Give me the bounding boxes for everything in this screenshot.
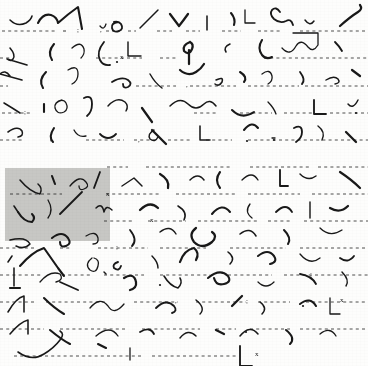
paragraph-x-mark: x <box>150 216 154 224</box>
ink-dot <box>245 331 247 333</box>
paragraph-x-mark: x <box>340 296 344 304</box>
ink-dot <box>159 284 161 286</box>
semicolon-mark: ; <box>77 26 79 34</box>
paragraph-x-mark: x <box>106 190 110 198</box>
ink-dot <box>246 140 248 142</box>
semicolon-mark: ; <box>246 297 248 305</box>
comma-mark: , <box>50 135 52 143</box>
ink-dot <box>116 61 118 63</box>
paragraph-x-mark: x <box>120 53 124 61</box>
comma-mark: , <box>175 297 177 305</box>
semicolon-mark: ; <box>310 270 312 278</box>
ink-dot <box>302 305 304 307</box>
comma-mark: , <box>138 136 140 144</box>
comma-mark: , <box>100 26 102 34</box>
comma-mark: , <box>186 81 188 89</box>
punctuation-marks-layer: xxxxx;;;;;,,,,, <box>0 0 368 366</box>
semicolon-mark: ; <box>116 243 118 251</box>
ink-dot <box>355 112 357 114</box>
semicolon-mark: ; <box>24 108 26 116</box>
shorthand-manuscript-page: xxxxx;;;;;,,,,, <box>0 0 368 366</box>
paragraph-x-mark: x <box>255 350 259 358</box>
ink-dot <box>273 139 275 141</box>
